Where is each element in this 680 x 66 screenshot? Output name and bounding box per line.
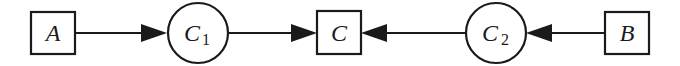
node-c1: C 1: [168, 3, 228, 63]
arrowhead-icon: [526, 24, 552, 42]
node-b-label: B: [620, 20, 635, 46]
node-c: C: [317, 11, 361, 54]
edge-b-to-c2: [526, 24, 605, 42]
node-c2-label: C: [482, 20, 499, 46]
arrowhead-icon: [141, 24, 167, 42]
node-c2-subscript: 2: [501, 31, 509, 48]
node-a: A: [31, 12, 75, 54]
edge-a-to-c1: [75, 24, 167, 42]
node-a-label: A: [44, 20, 61, 46]
node-c1-subscript: 1: [202, 31, 210, 48]
node-b: B: [605, 12, 649, 54]
edge-c1-to-c: [228, 24, 317, 42]
arrowhead-icon: [291, 24, 317, 42]
node-c1-label: C: [184, 20, 201, 46]
causal-diagram: A C 1 C C 2 B: [0, 0, 680, 66]
arrowhead-icon: [361, 24, 387, 42]
node-c2: C 2: [466, 3, 526, 63]
edge-c2-to-c: [361, 24, 466, 42]
node-c-label: C: [331, 20, 348, 46]
